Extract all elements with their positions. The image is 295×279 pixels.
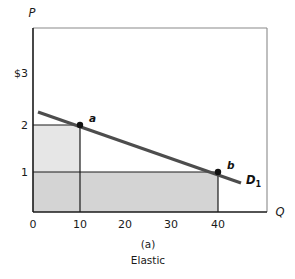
data-point-b [215,169,221,175]
point-a-label: a [89,112,96,124]
point-b-label: b [227,159,235,171]
y-tick-label-1: 1 [21,166,28,179]
x-axis-label: Q [275,205,284,219]
x-tick-label-40: 40 [211,218,225,231]
x-tick-label-20: 20 [118,218,132,231]
x-tick-label-30: 30 [164,218,178,231]
y-axis-label: P [29,6,36,20]
elasticity-demand-chart: P Q $3 2 1 0 10 20 30 40 a b D1 (a) Elas… [0,0,295,279]
revenue-rectangle-a [33,125,80,172]
y-tick-label-3: $3 [14,67,28,80]
x-tick-label-10: 10 [73,218,87,231]
panel-title: Elastic [131,254,165,266]
revenue-rectangle-b [33,172,218,212]
demand-curve-label-main: D [246,173,256,187]
panel-label: (a) [141,238,156,250]
demand-curve-label-subscript: 1 [256,180,262,189]
data-point-a [77,122,83,128]
x-tick-label-0: 0 [30,218,37,231]
y-tick-label-2: 2 [21,119,28,132]
